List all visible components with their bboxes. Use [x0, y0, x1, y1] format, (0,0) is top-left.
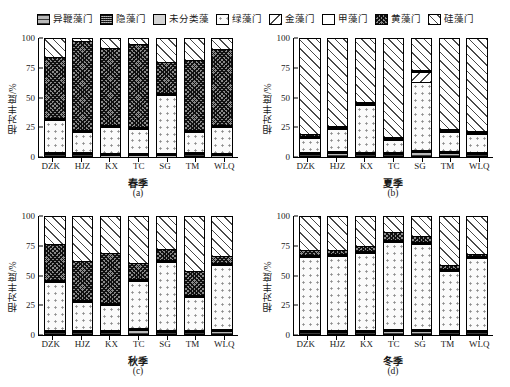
- bar-segment-硅藻门[interactable]: [328, 217, 347, 251]
- bar-segment-绿藻门[interactable]: [129, 282, 148, 329]
- bar-segment-异鞭藻门[interactable]: [45, 155, 64, 156]
- bar-segment-绿藻门[interactable]: [356, 254, 375, 331]
- bar-segment-异鞭藻门[interactable]: [73, 155, 92, 156]
- bar-segment-异鞭藻门[interactable]: [212, 332, 231, 334]
- bar-segment-黄藻门[interactable]: [157, 63, 176, 95]
- bar-segment-绿藻门[interactable]: [440, 133, 459, 152]
- bar-segment-硅藻门[interactable]: [45, 217, 64, 245]
- bar-segment-黄藻门[interactable]: [212, 257, 231, 264]
- bar-segment-绿藻门[interactable]: [73, 133, 92, 153]
- bar-segment-绿藻门[interactable]: [73, 303, 92, 331]
- bar-segment-绿藻门[interactable]: [101, 306, 120, 331]
- bar-segment-绿藻门[interactable]: [157, 263, 176, 331]
- bar-segment-异鞭藻门[interactable]: [45, 333, 64, 334]
- bar-segment-异鞭藻门[interactable]: [185, 155, 204, 156]
- stacked-bar-HJZ[interactable]: [72, 38, 93, 157]
- stacked-bar-HJZ[interactable]: [327, 38, 348, 157]
- stacked-bar-TM[interactable]: [184, 216, 205, 335]
- bar-segment-异鞭藻门[interactable]: [356, 155, 375, 156]
- stacked-bar-KX[interactable]: [355, 38, 376, 157]
- bar-segment-异鞭藻门[interactable]: [300, 333, 319, 334]
- bar-segment-硅藻门[interactable]: [129, 217, 148, 264]
- bar-segment-硅藻门[interactable]: [101, 39, 120, 49]
- bar-segment-异鞭藻门[interactable]: [185, 333, 204, 334]
- bar-segment-异鞭藻门[interactable]: [412, 332, 431, 334]
- bar-segment-绿藻门[interactable]: [212, 128, 231, 154]
- bar-segment-绿藻门[interactable]: [384, 243, 403, 330]
- bar-segment-异鞭藻门[interactable]: [384, 332, 403, 334]
- bar-segment-硅藻门[interactable]: [101, 217, 120, 254]
- bar-segment-黄藻门[interactable]: [212, 50, 231, 126]
- bar-segment-硅藻门[interactable]: [73, 217, 92, 262]
- bar-segment-异鞭藻门[interactable]: [384, 155, 403, 156]
- stacked-bar-TM[interactable]: [184, 38, 205, 157]
- bar-segment-硅藻门[interactable]: [356, 39, 375, 103]
- bar-segment-黄藻门[interactable]: [45, 58, 64, 119]
- stacked-bar-TC[interactable]: [128, 38, 149, 157]
- bar-segment-绿藻门[interactable]: [384, 141, 403, 153]
- bar-segment-黄藻门[interactable]: [101, 254, 120, 304]
- bar-segment-黄藻门[interactable]: [45, 245, 64, 281]
- stacked-bar-SG[interactable]: [156, 38, 177, 157]
- bar-segment-硅藻门[interactable]: [440, 217, 459, 266]
- bar-segment-异鞭藻门[interactable]: [157, 333, 176, 334]
- bar-segment-硅藻门[interactable]: [212, 39, 231, 50]
- bar-segment-黄藻门[interactable]: [157, 250, 176, 261]
- bar-segment-硅藻门[interactable]: [300, 39, 319, 135]
- stacked-bar-DZK[interactable]: [299, 216, 320, 335]
- bar-segment-黄藻门[interactable]: [73, 42, 92, 132]
- stacked-bar-SG[interactable]: [156, 216, 177, 335]
- bar-segment-硅藻门[interactable]: [45, 39, 64, 58]
- bar-segment-异鞭藻门[interactable]: [328, 333, 347, 334]
- stacked-bar-SG[interactable]: [411, 38, 432, 157]
- bar-segment-异鞭藻门[interactable]: [440, 154, 459, 156]
- bar-segment-硅藻门[interactable]: [412, 217, 431, 237]
- bar-segment-硅藻门[interactable]: [185, 39, 204, 61]
- bar-segment-异鞭藻门[interactable]: [467, 155, 486, 156]
- stacked-bar-DZK[interactable]: [299, 38, 320, 157]
- bar-segment-绿藻门[interactable]: [412, 83, 431, 151]
- bar-segment-黄藻门[interactable]: [129, 264, 148, 280]
- stacked-bar-KX[interactable]: [100, 38, 121, 157]
- bar-segment-硅藻门[interactable]: [185, 217, 204, 272]
- bar-segment-绿藻门[interactable]: [467, 259, 486, 331]
- bar-segment-硅藻门[interactable]: [212, 217, 231, 257]
- stacked-bar-DZK[interactable]: [44, 216, 65, 335]
- bar-segment-绿藻门[interactable]: [328, 130, 347, 152]
- bar-segment-异鞭藻门[interactable]: [467, 333, 486, 334]
- bar-segment-绿藻门[interactable]: [157, 96, 176, 153]
- bar-segment-绿藻门[interactable]: [328, 257, 347, 331]
- bar-segment-绿藻门[interactable]: [45, 121, 64, 153]
- bar-segment-绿藻门[interactable]: [467, 135, 486, 153]
- bar-segment-硅藻门[interactable]: [384, 39, 403, 138]
- bar-segment-绿藻门[interactable]: [129, 130, 148, 154]
- stacked-bar-WLQ[interactable]: [211, 38, 232, 157]
- bar-segment-硅藻门[interactable]: [300, 217, 319, 251]
- stacked-bar-TC[interactable]: [128, 216, 149, 335]
- bar-segment-异鞭藻门[interactable]: [356, 333, 375, 334]
- bar-segment-黄藻门[interactable]: [101, 49, 120, 126]
- bar-segment-绿藻门[interactable]: [412, 245, 431, 331]
- bar-segment-硅藻门[interactable]: [328, 39, 347, 127]
- bar-segment-硅藻门[interactable]: [412, 39, 431, 71]
- stacked-bar-HJZ[interactable]: [72, 216, 93, 335]
- bar-segment-异鞭藻门[interactable]: [328, 154, 347, 156]
- bar-segment-硅藻门[interactable]: [157, 217, 176, 250]
- stacked-bar-WLQ[interactable]: [466, 38, 487, 157]
- stacked-bar-TM[interactable]: [439, 216, 460, 335]
- stacked-bar-HJZ[interactable]: [327, 216, 348, 335]
- bar-segment-绿藻门[interactable]: [440, 272, 459, 332]
- stacked-bar-KX[interactable]: [100, 216, 121, 335]
- bar-segment-黄藻门[interactable]: [384, 233, 403, 241]
- stacked-bar-WLQ[interactable]: [211, 216, 232, 335]
- bar-segment-异鞭藻门[interactable]: [300, 155, 319, 156]
- bar-segment-绿藻门[interactable]: [300, 258, 319, 331]
- bar-segment-绿藻门[interactable]: [101, 128, 120, 154]
- bar-segment-绿藻门[interactable]: [185, 133, 204, 153]
- bar-segment-硅藻门[interactable]: [440, 39, 459, 130]
- bar-segment-绿藻门[interactable]: [300, 139, 319, 153]
- bar-segment-异鞭藻门[interactable]: [129, 331, 148, 334]
- bar-segment-异鞭藻门[interactable]: [440, 333, 459, 334]
- bar-segment-黄藻门[interactable]: [129, 45, 148, 128]
- bar-segment-黄藻门[interactable]: [73, 262, 92, 302]
